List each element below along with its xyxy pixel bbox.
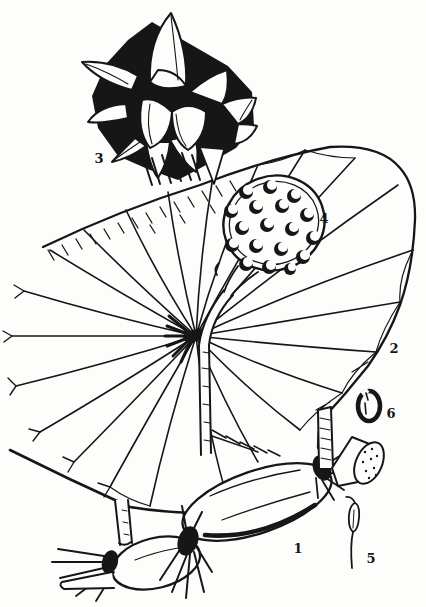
label-flower: 3 <box>94 151 103 166</box>
label-seed: 6 <box>386 406 395 421</box>
label-rhizome: 1 <box>293 541 302 556</box>
seed-notch <box>362 390 368 394</box>
petal-left <box>88 104 128 123</box>
stamen-inner-line <box>353 510 354 528</box>
seed-drawing <box>358 390 380 421</box>
label-leaf: 2 <box>389 341 398 356</box>
label-seed-pod: 4 <box>319 211 328 226</box>
petal-right-lower <box>234 124 257 144</box>
stamen-tip-appendage <box>346 497 355 503</box>
lotus-illustration: 1 2 3 4 5 6 <box>0 0 426 607</box>
lotus-flower-drawing <box>82 13 257 185</box>
stamen-drawing <box>346 497 359 568</box>
botanical-plate: 1 2 3 4 5 6 <box>0 0 426 607</box>
label-stamen: 5 <box>366 551 375 566</box>
stamen-filament <box>351 532 353 568</box>
